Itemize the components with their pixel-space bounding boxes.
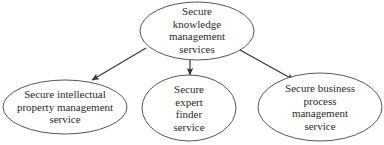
node-ip-label: Secure intellectual property management … (3, 88, 127, 126)
edge-knowledge-to-ip (92, 48, 146, 80)
node-bpm-label: Secure business process management servi… (258, 82, 382, 132)
node-expert-label: Secure expert finder service (142, 83, 236, 133)
node-knowledge-label: Secure knowledge management services (140, 5, 254, 55)
